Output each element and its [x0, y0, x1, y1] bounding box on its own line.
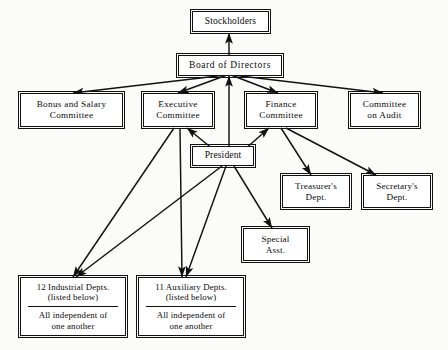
edge-executive-to-auxiliary [180, 128, 182, 277]
node-treasurers-dept[interactable]: Treasurer's Dept. [282, 175, 350, 208]
node-secretarys-dept[interactable]: Secretary's Dept. [363, 175, 431, 208]
node-committee-on-audit[interactable]: Committee on Audit [350, 93, 419, 127]
node-stockholders-label: Stockholders [205, 16, 256, 27]
node-auxiliary-depts-line3: All independent of [157, 310, 226, 320]
node-auxiliary-depts-heading: 11 Auxiliary Depts. (listed below) [139, 282, 243, 305]
node-industrial-depts-line3: All independent of [39, 310, 108, 320]
node-secretarys-dept-line2: Dept. [387, 192, 408, 203]
edge-board-to-executive [178, 75, 227, 93]
node-bonus-and-salary-committee[interactable]: Bonus and Salary Committee [20, 93, 123, 127]
node-auxiliary-depts-line4: one another [170, 321, 213, 331]
node-auxiliary-depts[interactable]: 11 Auxiliary Depts. (listed below) All i… [138, 277, 244, 336]
edge-president-to-industrial [76, 166, 222, 277]
node-industrial-depts-heading: 12 Industrial Depts. (listed below) [21, 282, 125, 305]
node-secretarys-dept-line1: Secretary's [376, 181, 418, 192]
node-industrial-depts-note: All independent of one another [21, 310, 125, 331]
node-finance-committee-line2: Committee [259, 110, 303, 121]
edge-president-to-auxiliary [186, 166, 226, 277]
edge-board-to-finance [231, 75, 278, 93]
node-bonus-and-salary-committee-line2: Committee [50, 110, 94, 121]
node-president[interactable]: President [192, 146, 254, 166]
node-treasurers-dept-line1: Treasurer's [295, 181, 337, 192]
node-executive-committee[interactable]: Executive Committee [143, 93, 213, 127]
node-stockholders[interactable]: Stockholders [192, 11, 269, 32]
node-committee-on-audit-line2: on Audit [367, 110, 401, 121]
node-industrial-depts-divider [28, 306, 117, 307]
node-bonus-and-salary-committee-line1: Bonus and Salary [37, 99, 107, 110]
node-committee-on-audit-line1: Committee [363, 99, 407, 110]
node-board-of-directors[interactable]: Board of Directors [178, 55, 282, 76]
edge-board-to-bonus-salary [73, 75, 226, 93]
edge-president-to-special-asst [234, 166, 272, 228]
node-executive-committee-line1: Executive [158, 99, 197, 110]
node-industrial-depts[interactable]: 12 Industrial Depts. (listed below) All … [20, 277, 126, 336]
node-president-label: President [205, 150, 242, 161]
node-special-asst-line2: Asst. [266, 245, 285, 256]
node-board-of-directors-label: Board of Directors [189, 60, 271, 71]
edge-executive-to-industrial [73, 128, 174, 277]
node-treasurers-dept-line2: Dept. [306, 192, 327, 203]
node-special-asst-line1: Special [261, 234, 289, 245]
edge-finance-to-treasurer [281, 128, 311, 175]
org-chart-diagram: Stockholders Board of Directors Bonus an… [0, 0, 448, 350]
node-industrial-depts-line2: (listed below) [48, 292, 99, 302]
node-finance-committee-line1: Finance [265, 99, 296, 110]
node-executive-committee-line2: Committee [156, 110, 200, 121]
node-industrial-depts-line1: 12 Industrial Depts. [37, 282, 110, 292]
node-auxiliary-depts-note: All independent of one another [139, 310, 243, 331]
edge-board-to-audit [232, 75, 383, 93]
node-auxiliary-depts-line2: (listed below) [166, 292, 217, 302]
node-finance-committee[interactable]: Finance Committee [246, 93, 316, 127]
node-auxiliary-depts-divider [146, 306, 235, 307]
edge-finance-to-secretary [286, 128, 376, 175]
node-special-asst[interactable]: Special Asst. [243, 228, 308, 261]
node-auxiliary-depts-line1: 11 Auxiliary Depts. [155, 282, 227, 292]
node-industrial-depts-line4: one another [52, 321, 95, 331]
